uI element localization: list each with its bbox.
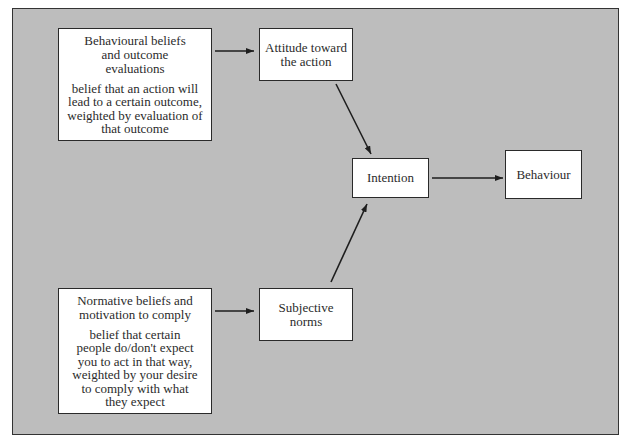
node-description: belief that certain people do/don't expe… bbox=[71, 328, 199, 409]
node-title: Attitude toward the action bbox=[264, 41, 348, 69]
node-title: Intention bbox=[367, 171, 414, 185]
node-description: belief that an action will lead to a cer… bbox=[67, 82, 203, 136]
node-behaviour: Behaviour bbox=[505, 150, 582, 199]
node-title: Behavioural beliefs and outcome evaluati… bbox=[75, 34, 195, 76]
node-subjective-norms: Subjective norms bbox=[259, 288, 353, 341]
node-normative-beliefs: Normative beliefs and motivation to comp… bbox=[58, 288, 212, 414]
node-title: Normative beliefs and motivation to comp… bbox=[73, 294, 197, 322]
node-intention: Intention bbox=[352, 158, 429, 198]
node-title: Subjective norms bbox=[271, 301, 341, 329]
node-behavioural-beliefs: Behavioural beliefs and outcome evaluati… bbox=[58, 28, 212, 141]
node-title: Behaviour bbox=[516, 168, 570, 182]
node-attitude: Attitude toward the action bbox=[259, 28, 353, 81]
